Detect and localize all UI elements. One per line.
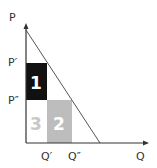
y-axis-label: P (9, 11, 16, 24)
region-1-label: 1 (30, 73, 42, 93)
price-quantity-diagram: 1 2 3 P P′ P″ Q′ Q″ Q (0, 0, 157, 168)
y-tick-p-prime: P′ (8, 56, 18, 69)
x-axis-arrow-icon (143, 141, 149, 146)
x-tick-q-prime: Q′ (41, 150, 53, 163)
region-2-label: 2 (53, 114, 65, 134)
x-tick-q-double-prime: Q″ (68, 150, 81, 163)
x-axis-label: Q (136, 150, 145, 163)
y-axis-arrow-icon (24, 23, 29, 29)
region-3-label: 3 (30, 114, 42, 134)
y-tick-p-double-prime: P″ (8, 94, 19, 107)
